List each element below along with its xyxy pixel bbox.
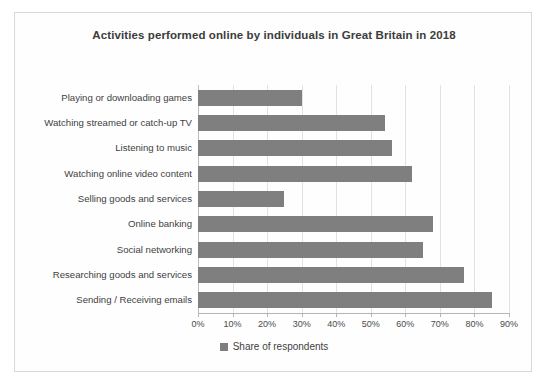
- bar-row: [198, 186, 509, 211]
- bar: [198, 242, 423, 258]
- x-tick-mark: [336, 313, 337, 317]
- bar: [198, 166, 412, 182]
- legend-label: Share of respondents: [233, 341, 329, 352]
- bar-row: [198, 262, 509, 287]
- x-tick-mark: [371, 313, 372, 317]
- bar-row: [198, 161, 509, 186]
- category-label: Selling goods and services: [0, 193, 192, 204]
- x-tick-mark: [440, 313, 441, 317]
- category-label: Watching online video content: [0, 168, 192, 179]
- bar: [198, 267, 464, 283]
- bar: [198, 191, 284, 207]
- bar-row: [198, 136, 509, 161]
- x-tick-mark: [267, 313, 268, 317]
- x-tick-label: 90%: [489, 319, 529, 329]
- x-tick-mark: [302, 313, 303, 317]
- x-tick-mark: [198, 313, 199, 317]
- category-label: Online banking: [0, 218, 192, 229]
- category-label: Listening to music: [0, 142, 192, 153]
- legend-swatch-icon: [220, 343, 228, 351]
- bar-row: [198, 237, 509, 262]
- category-label: Watching streamed or catch-up TV: [0, 117, 192, 128]
- bar: [198, 115, 385, 131]
- x-tick-mark: [233, 313, 234, 317]
- chart-title: Activities performed online by individua…: [15, 29, 533, 41]
- x-tick-mark: [509, 313, 510, 317]
- bar-row: [198, 85, 509, 110]
- category-label: Sending / Receiving emails: [0, 294, 192, 305]
- plot-area: [198, 85, 509, 313]
- x-tick-mark: [405, 313, 406, 317]
- x-tick-mark: [474, 313, 475, 317]
- gridline: [509, 85, 510, 313]
- bar-row: [198, 110, 509, 135]
- chart-container: Activities performed online by individua…: [14, 12, 532, 372]
- category-label: Playing or downloading games: [0, 92, 192, 103]
- category-label: Researching goods and services: [0, 269, 192, 280]
- bar: [198, 140, 392, 156]
- bar: [198, 216, 433, 232]
- chart-legend: Share of respondents: [15, 341, 533, 352]
- bar-row: [198, 212, 509, 237]
- category-label: Social networking: [0, 244, 192, 255]
- bar-row: [198, 288, 509, 313]
- bar: [198, 292, 492, 308]
- bar: [198, 90, 302, 106]
- x-axis-line: [198, 313, 510, 314]
